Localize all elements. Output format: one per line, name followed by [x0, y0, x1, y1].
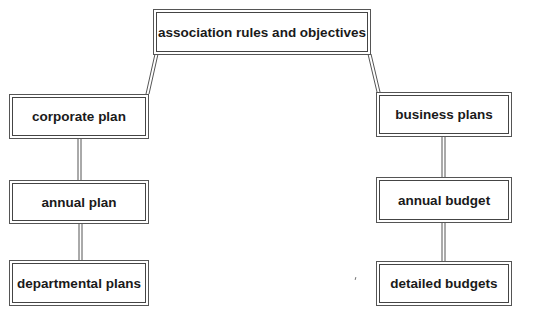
- node-annual-budget: annual budget: [376, 177, 512, 223]
- node-detailed-budgets: detailed budgets: [376, 261, 512, 306]
- node-label: annual plan: [12, 183, 146, 221]
- node-label: detailed budgets: [379, 264, 509, 303]
- node-corporate-plan: corporate plan: [9, 94, 149, 139]
- node-annual-plan: annual plan: [9, 180, 149, 224]
- node-label: business plans: [379, 95, 509, 134]
- node-departmental-plans: departmental plans: [9, 260, 149, 306]
- node-label: departmental plans: [12, 263, 146, 303]
- root-node-label: association rules and objectives: [156, 12, 368, 52]
- node-business-plans: business plans: [376, 92, 512, 137]
- node-label: annual budget: [379, 180, 509, 220]
- root-node: association rules and objectives: [153, 9, 371, 55]
- node-label: corporate plan: [12, 97, 146, 136]
